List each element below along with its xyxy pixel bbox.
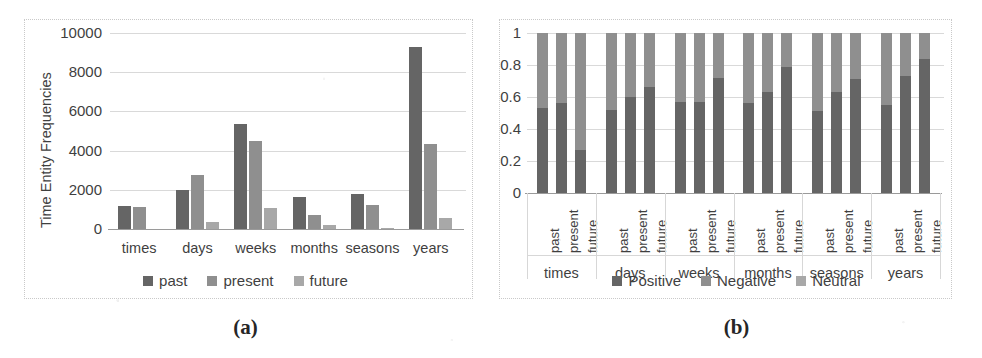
x-sublabel-b-times-past: past	[547, 228, 562, 253]
stack-segment-times-past-Positive	[537, 108, 548, 193]
plot-area-a	[110, 33, 460, 229]
legend-label-b: Neutral	[812, 272, 860, 289]
stack-segment-months-future-Positive	[781, 67, 792, 193]
legend-label-a: present	[223, 272, 273, 289]
x-sublabel-b-months-future: future	[791, 220, 806, 253]
caption-b: (b)	[491, 315, 982, 340]
legend-label-a: past	[159, 272, 187, 289]
bar-days-past	[176, 190, 189, 229]
stack-segment-weeks-past-Negative	[675, 33, 686, 102]
bar-seasons-present	[366, 205, 379, 229]
bar-times-past	[118, 206, 131, 229]
legend-swatch-icon	[612, 276, 622, 286]
stack-segment-months-present-Positive	[762, 92, 773, 193]
legend-item-a-future[interactable]: future	[294, 272, 348, 289]
x-sublabel-b-years-present: present	[910, 210, 925, 253]
stack-segment-days-future-Positive	[644, 87, 655, 193]
bar-days-future	[206, 222, 219, 229]
stack-segment-days-present-Positive	[625, 97, 636, 193]
stack-segment-times-future-Negative	[575, 33, 586, 150]
legend-item-a-present[interactable]: present	[207, 272, 273, 289]
legend-b: PositiveNegativeNeutral	[491, 272, 982, 289]
legend-label-b: Negative	[717, 272, 776, 289]
y-tick-label-b: 0.8	[491, 57, 521, 72]
y-tick-label-a: 8000	[40, 64, 102, 79]
x-sublabel-b-days-past: past	[616, 228, 631, 253]
stack-segment-seasons-past-Positive	[812, 111, 823, 193]
legend-swatch-icon	[294, 276, 304, 286]
legend-item-b-Neutral[interactable]: Neutral	[796, 272, 860, 289]
bar-days-present	[191, 175, 204, 229]
bar-weeks-present	[249, 141, 262, 229]
legend-a: pastpresentfuture	[0, 272, 491, 289]
y-tick-label-a: 2000	[40, 182, 102, 197]
x-sublabel-b-years-future: future	[929, 220, 944, 253]
plot-area-b	[527, 33, 940, 193]
x-sublabel-b-times-future: future	[585, 220, 600, 253]
stack-segment-weeks-future-Positive	[713, 78, 724, 193]
x-label-a-years: years	[394, 240, 468, 256]
legend-swatch-icon	[143, 276, 153, 286]
bar-seasons-past	[351, 194, 364, 229]
bar-years-present	[424, 144, 437, 229]
y-tick-label-b: 0.4	[491, 121, 521, 136]
y-tick-label-b: 0.2	[491, 153, 521, 168]
x-sublabel-b-days-present: present	[635, 210, 650, 253]
legend-item-b-Positive[interactable]: Positive	[612, 272, 681, 289]
x-sublabel-b-seasons-future: future	[860, 220, 875, 253]
x-sublabel-b-days-future: future	[654, 220, 669, 253]
chart-panel-a: Time Entity Frequencies 0200040006000800…	[0, 0, 491, 358]
stack-segment-days-past-Positive	[606, 110, 617, 193]
stack-segment-times-past-Negative	[537, 33, 548, 108]
stack-segment-years-present-Positive	[900, 76, 911, 193]
y-tick-label-a: 4000	[40, 143, 102, 158]
y-tick-label-a: 6000	[40, 103, 102, 118]
legend-item-b-Negative[interactable]: Negative	[701, 272, 776, 289]
y-tick-label-b: 0	[491, 185, 521, 200]
legend-item-a-past[interactable]: past	[143, 272, 187, 289]
legend-swatch-icon	[207, 276, 217, 286]
stack-segment-weeks-past-Positive	[675, 102, 686, 193]
stack-segment-times-future-Positive	[575, 150, 586, 193]
bar-years-future	[439, 218, 452, 229]
stack-segment-times-present-Positive	[556, 103, 567, 193]
bar-months-past	[293, 197, 306, 229]
stack-segment-years-future-Negative	[919, 33, 930, 59]
x-sublabel-b-weeks-future: future	[723, 220, 738, 253]
x-sublabel-b-weeks-past: past	[685, 228, 700, 253]
stack-segment-years-present-Negative	[900, 33, 911, 76]
x-sublabel-b-months-past: past	[753, 228, 768, 253]
chart-panel-b: 00.20.40.60.81 pastpresentfuturepastpres…	[491, 0, 982, 358]
stack-segment-years-future-Positive	[919, 59, 930, 193]
bar-years-past	[409, 47, 422, 229]
x-sublabel-b-years-past: past	[891, 228, 906, 253]
x-sublabel-b-seasons-present: present	[841, 210, 856, 253]
stack-segment-weeks-present-Positive	[694, 102, 705, 193]
stack-segment-days-past-Negative	[606, 33, 617, 110]
stack-segment-seasons-present-Positive	[831, 92, 842, 193]
x-sublabel-b-months-present: present	[772, 210, 787, 253]
stack-segment-years-past-Negative	[881, 33, 892, 105]
bar-months-present	[308, 215, 321, 229]
caption-a: (a)	[0, 315, 491, 340]
bar-times-present	[133, 207, 146, 229]
x-sublabel-b-weeks-present: present	[704, 210, 719, 253]
stack-segment-seasons-future-Negative	[850, 33, 861, 79]
legend-swatch-icon	[796, 276, 806, 286]
y-tick-label-b: 1	[491, 25, 521, 40]
stack-segment-weeks-present-Negative	[694, 33, 705, 102]
stack-segment-years-past-Positive	[881, 105, 892, 193]
x-sublabel-b-times-present: present	[566, 210, 581, 253]
y-tick-label-a: 10000	[40, 25, 102, 40]
legend-label-a: future	[310, 272, 348, 289]
stack-segment-months-future-Negative	[781, 33, 792, 67]
sublabel-divider-b	[527, 255, 940, 256]
figure-container: Time Entity Frequencies 0200040006000800…	[0, 0, 982, 358]
stack-segment-months-past-Positive	[743, 103, 754, 193]
x-sublabel-b-seasons-past: past	[822, 228, 837, 253]
stack-segment-days-future-Negative	[644, 33, 655, 87]
stack-segment-days-present-Negative	[625, 33, 636, 97]
legend-label-b: Positive	[628, 272, 681, 289]
x-axis-line-a	[108, 229, 464, 230]
stack-segment-seasons-past-Negative	[812, 33, 823, 111]
